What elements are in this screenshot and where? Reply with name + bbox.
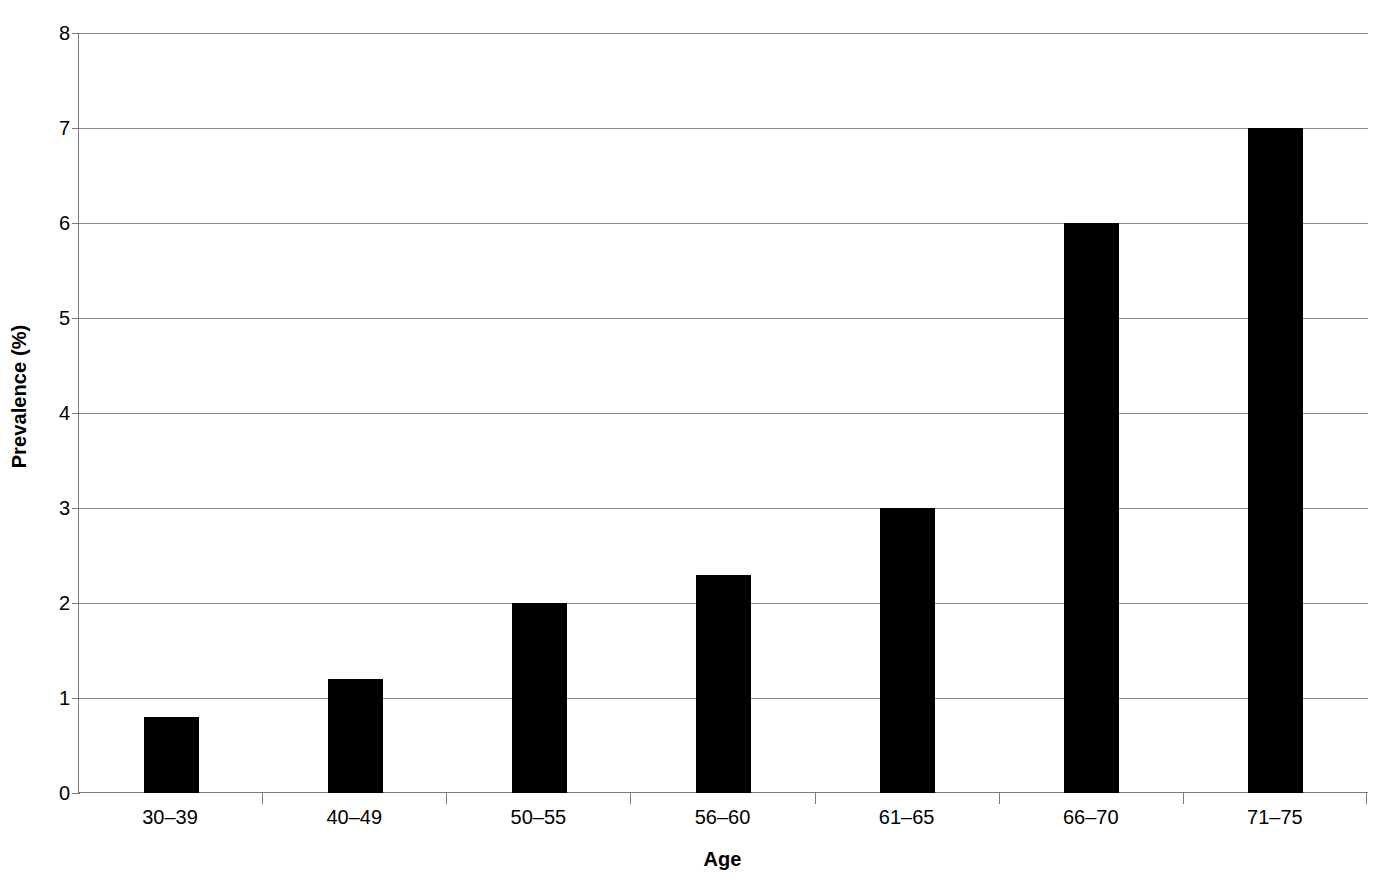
y-axis-tick-label: 6 [40,213,70,233]
y-axis-tick-label: 5 [40,308,70,328]
y-axis-title-text: Prevalence (%) [9,325,32,469]
y-axis-tick-label: 2 [40,593,70,613]
bar [512,603,567,793]
x-axis-tick-label: 66–70 [1063,806,1119,829]
x-axis-tick-label: 61–65 [879,806,935,829]
x-axis-tick-mark [999,793,1000,804]
x-axis-tick-mark [446,793,447,804]
x-axis-tick-mark [815,793,816,804]
y-axis-tick-label: 4 [40,403,70,423]
bar [1064,223,1119,793]
x-axis-tick-mark [262,793,263,804]
x-axis-tick-mark [1183,793,1184,804]
x-axis-tick-mark [1366,793,1367,804]
x-axis-tick-label: 71–75 [1247,806,1303,829]
y-axis-tick-label: 3 [40,498,70,518]
bar [328,679,383,793]
y-axis-tick-label: 0 [40,783,70,803]
x-axis-tick-label: 30–39 [142,806,198,829]
plot-area [78,33,1367,793]
bar-chart: Prevalence (%) 012345678 30–3940–4950–55… [0,0,1378,889]
y-axis-tick-label: 1 [40,688,70,708]
x-axis-tick-labels: 30–3940–4950–5556–6061–6566–7071–75 [78,806,1367,840]
x-axis-tick-mark [630,793,631,804]
x-axis-tick-marks [78,793,1367,805]
x-axis-tick-label: 50–55 [511,806,567,829]
bar [696,575,751,794]
y-axis-tick-labels: 012345678 [40,0,70,793]
x-axis-tick-label: 56–60 [695,806,751,829]
y-axis-tick-label: 8 [40,23,70,43]
y-axis-title: Prevalence (%) [0,0,40,793]
x-axis-title: Age [78,848,1367,871]
x-axis-tick-label: 40–49 [326,806,382,829]
bars-layer [79,33,1368,793]
bar [880,508,935,793]
bar [1248,128,1303,793]
bar [144,717,199,793]
y-axis-tick-label: 7 [40,118,70,138]
